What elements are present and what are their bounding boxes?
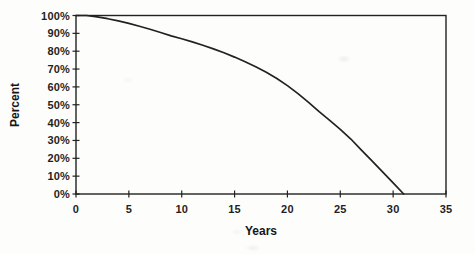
x-tick-label: 15	[218, 202, 252, 216]
line-chart: Percent Years 0%10%20%30%40%50%60%70%80%…	[0, 0, 475, 254]
x-tick-label: 30	[376, 202, 410, 216]
y-tick-label: 80%	[24, 44, 70, 58]
x-tick-label: 5	[112, 202, 146, 216]
y-tick-label: 70%	[24, 62, 70, 76]
x-axis-title: Years	[216, 224, 306, 238]
series-percent-remaining-curve	[76, 16, 404, 195]
y-tick-label: 40%	[24, 116, 70, 130]
y-tick-label: 20%	[24, 151, 70, 165]
x-tick-label: 10	[165, 202, 199, 216]
x-tick-label: 25	[323, 202, 357, 216]
y-tick-label: 10%	[24, 169, 70, 183]
y-axis-title: Percent	[8, 60, 22, 150]
y-tick-label: 90%	[24, 26, 70, 40]
y-tick-label: 100%	[24, 9, 70, 23]
y-tick-label: 60%	[24, 80, 70, 94]
y-tick-label: 30%	[24, 133, 70, 147]
x-tick-label: 35	[429, 202, 463, 216]
y-tick-label: 0%	[24, 187, 70, 201]
x-tick-label: 0	[59, 202, 93, 216]
plot-frame	[76, 16, 446, 195]
x-tick-label: 20	[270, 202, 304, 216]
y-tick-label: 50%	[24, 98, 70, 112]
